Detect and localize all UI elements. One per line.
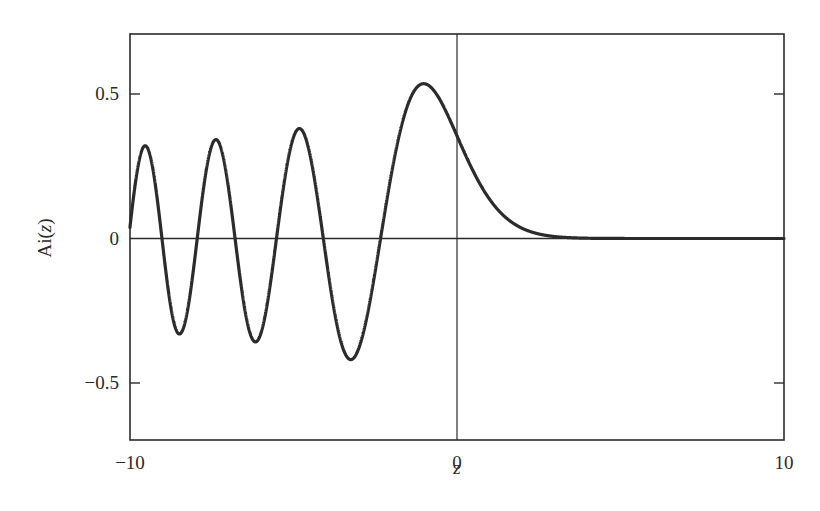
x-tick-label: −10: [115, 452, 145, 473]
y-tick-label: 0: [110, 228, 120, 249]
y-axis-tick-labels: 0.50−0.5: [85, 83, 119, 393]
y-axis-label: Ai(z): [34, 218, 56, 257]
x-tick-label: 10: [775, 452, 794, 473]
airy-function-chart: −10010 0.50−0.5 z Ai(z): [0, 0, 820, 511]
y-tick-label: 0.5: [95, 83, 119, 104]
x-axis-label: z: [452, 457, 461, 478]
y-tick-label: −0.5: [85, 372, 119, 393]
